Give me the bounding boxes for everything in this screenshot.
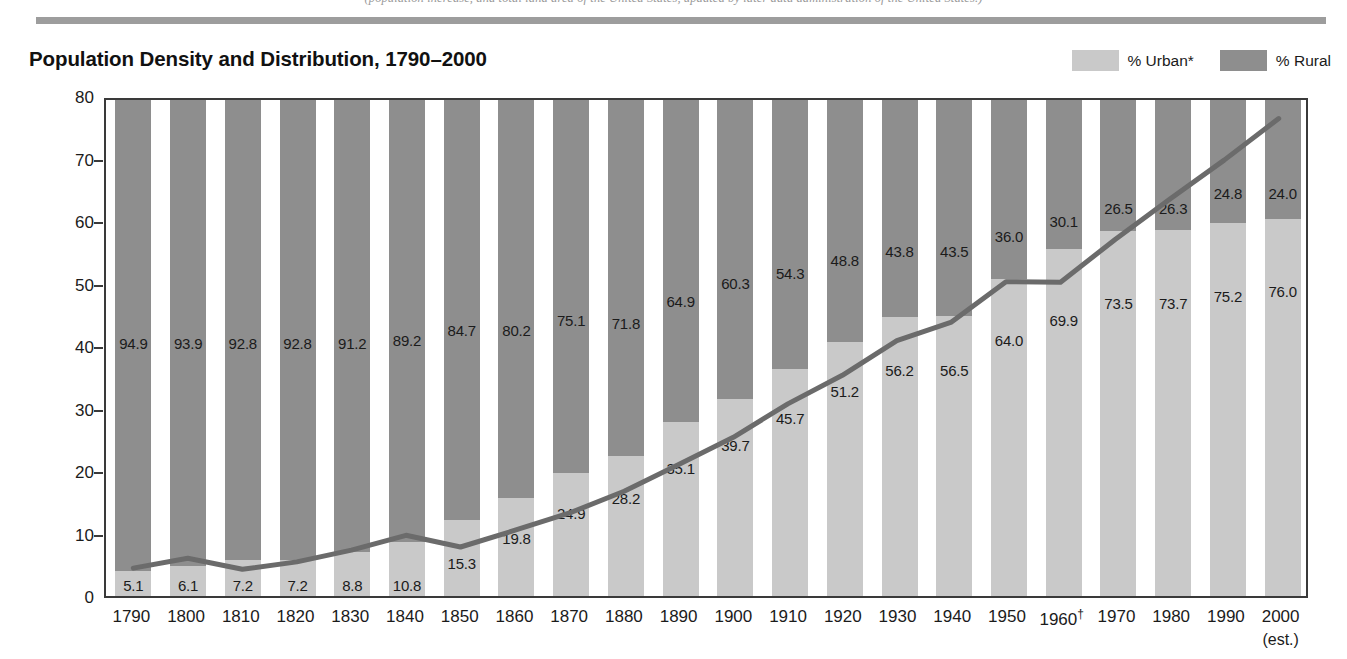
y-axis-tick-label: 0: [85, 588, 94, 608]
x-axis-estimate-note: (est.): [1262, 631, 1298, 649]
x-axis-tick-label: 1860: [496, 607, 534, 627]
header-rule: [36, 17, 1326, 24]
bar-column[interactable]: [1046, 100, 1082, 596]
legend-item-urban[interactable]: % Urban*: [1072, 50, 1194, 71]
y-axis-tick-mark: [94, 347, 103, 349]
bar-column[interactable]: [663, 100, 699, 596]
bar-segment-urban: [827, 342, 863, 596]
y-axis-tick-mark: [94, 472, 103, 474]
bar-segment-rural: [389, 100, 425, 542]
bar-value-rural: 71.8: [612, 315, 640, 332]
bar-segment-urban: [1100, 231, 1136, 596]
bar-segment-rural: [553, 100, 589, 472]
x-axis-tick-label: 1940: [933, 607, 971, 627]
bar-column[interactable]: [717, 100, 753, 596]
y-axis-tick-mark: [94, 285, 103, 287]
bar-column[interactable]: [1210, 100, 1246, 596]
legend-swatch-urban: [1072, 50, 1119, 71]
bar-column[interactable]: [1100, 100, 1136, 596]
bar-value-urban: 45.7: [776, 410, 804, 427]
bar-column[interactable]: [1155, 100, 1191, 596]
bar-segment-rural: [827, 100, 863, 342]
bar-segment-rural: [170, 100, 206, 566]
x-axis-tick-label: 1810: [222, 607, 260, 627]
bar-column[interactable]: [772, 100, 808, 596]
bar-value-rural: 93.9: [174, 335, 202, 352]
bar-column[interactable]: [608, 100, 644, 596]
bar-value-urban: 7.2: [233, 577, 253, 594]
bar-value-rural: 30.1: [1050, 213, 1078, 230]
bar-value-urban: 15.3: [448, 555, 476, 572]
legend-label-rural: % Rural: [1276, 52, 1331, 70]
bar-segment-rural: [936, 100, 972, 316]
legend-swatch-rural: [1220, 50, 1267, 71]
bar-segment-rural: [663, 100, 699, 422]
y-axis-tick-label: 20: [75, 463, 94, 483]
bar-segment-urban: [882, 317, 918, 596]
bar-column[interactable]: [936, 100, 972, 596]
bar-value-rural: 89.2: [393, 332, 421, 349]
top-caption: (population increase, and total land are…: [0, 0, 1347, 5]
bar-value-rural: 24.8: [1214, 185, 1242, 202]
bar-value-rural: 60.3: [721, 275, 749, 292]
y-axis-tick-mark: [94, 535, 103, 537]
legend-label-urban: % Urban*: [1128, 52, 1194, 70]
bar-value-rural: 84.7: [448, 322, 476, 339]
bar-value-rural: 94.9: [119, 335, 147, 352]
bar-value-urban: 19.8: [502, 530, 530, 547]
bar-segment-rural: [717, 100, 753, 399]
bar-segment-rural: [772, 100, 808, 369]
bar-value-urban: 7.2: [287, 577, 307, 594]
bar-segment-rural: [991, 100, 1027, 279]
bar-value-urban: 69.9: [1050, 312, 1078, 329]
bar-value-urban: 28.2: [612, 490, 640, 507]
x-axis-tick-label: 1890: [660, 607, 698, 627]
bar-value-rural: 75.1: [557, 312, 585, 329]
bar-value-urban: 6.1: [178, 577, 198, 594]
bar-segment-rural: [334, 100, 370, 552]
x-axis-tick-label: 1850: [441, 607, 479, 627]
bar-value-urban: 5.1: [123, 577, 143, 594]
bar-segment-rural: [280, 100, 316, 560]
bar-segment-rural: [1210, 100, 1246, 223]
bar-value-urban: 39.7: [721, 437, 749, 454]
bar-segment-rural: [498, 100, 534, 498]
page-title: Population Density and Distribution, 179…: [29, 47, 487, 71]
bar-segment-rural: [444, 100, 480, 520]
bar-segment-urban: [936, 316, 972, 596]
bar-segment-urban: [1265, 219, 1301, 596]
y-axis-tick-label: 50: [75, 276, 94, 296]
bar-value-rural: 80.2: [502, 322, 530, 339]
x-axis-tick-label: 2000: [1262, 607, 1300, 627]
bar-segment-urban: [1046, 249, 1082, 596]
bar-column[interactable]: [444, 100, 480, 596]
bar-value-urban: 51.2: [831, 383, 859, 400]
bar-value-rural: 54.3: [776, 265, 804, 282]
bar-value-urban: 56.5: [940, 362, 968, 379]
bar-column[interactable]: [827, 100, 863, 596]
bar-value-rural: 91.2: [338, 335, 366, 352]
x-axis-tick-label: 1790: [112, 607, 150, 627]
bar-value-urban: 56.2: [885, 362, 913, 379]
bar-column[interactable]: [882, 100, 918, 596]
bar-column[interactable]: [1265, 100, 1301, 596]
bar-value-urban: 73.5: [1104, 295, 1132, 312]
x-axis-tick-label: 1870: [550, 607, 588, 627]
bar-segment-urban: [772, 369, 808, 596]
plot-frame: 5.194.96.193.97.292.87.292.88.891.210.88…: [104, 98, 1308, 598]
bar-segment-urban: [553, 473, 589, 597]
y-axis-tick-label: 60: [75, 213, 94, 233]
bar-value-urban: 73.7: [1159, 295, 1187, 312]
x-axis-tick-label: 1910: [769, 607, 807, 627]
y-axis-tick-label: 40: [75, 338, 94, 358]
bar-column[interactable]: [498, 100, 534, 596]
legend-item-rural[interactable]: % Rural: [1220, 50, 1331, 71]
bar-segment-urban: [608, 456, 644, 596]
x-axis-tick-label: 1930: [879, 607, 917, 627]
bar-segment-rural: [608, 100, 644, 456]
bar-value-rural: 64.9: [666, 293, 694, 310]
y-axis-tick-label: 70: [75, 151, 94, 171]
x-axis-tick-label: 1880: [605, 607, 643, 627]
x-axis-tick-label: 1830: [331, 607, 369, 627]
bar-value-urban: 76.0: [1268, 283, 1296, 300]
